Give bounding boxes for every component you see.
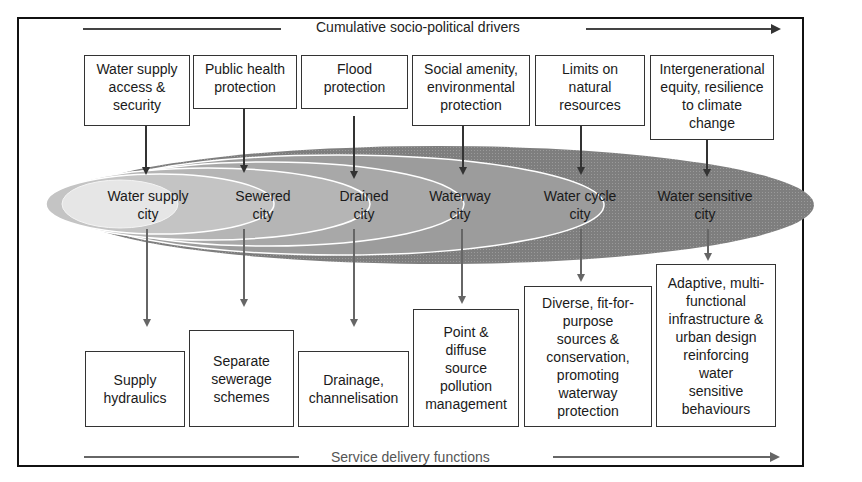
function-adaptive-infrastructure: Adaptive, multi- functional infrastructu… xyxy=(656,264,776,427)
arrow-function-2 xyxy=(243,229,245,300)
function-pollution-management: Point & diffuse source pollution managem… xyxy=(413,309,519,427)
bottom-line-right xyxy=(553,456,771,458)
city-water-supply: Water supply city xyxy=(93,187,203,223)
arrow-driver-3 xyxy=(353,116,355,172)
arrow-function-4 xyxy=(461,229,463,297)
function-separate-sewerage: Separate sewerage schemes xyxy=(189,330,294,427)
arrow-function-head-5-icon xyxy=(577,274,585,282)
driver-limits-resources: Limits on natural resources xyxy=(535,55,645,126)
arrow-driver-5 xyxy=(580,126,582,168)
function-drainage: Drainage, channelisation xyxy=(298,351,409,427)
arrow-head-2-icon xyxy=(240,165,248,173)
arrow-driver-4 xyxy=(462,126,464,168)
driver-social-amenity: Social amenity, environmental protection xyxy=(412,55,530,126)
function-supply-hydraulics: Supply hydraulics xyxy=(85,351,185,427)
arrow-function-5 xyxy=(580,229,582,275)
arrow-function-head-1-icon xyxy=(143,319,151,327)
city-drained: Drained city xyxy=(324,187,404,223)
arrow-driver-1 xyxy=(145,126,147,168)
arrow-function-head-3-icon xyxy=(350,319,358,327)
arrow-function-1 xyxy=(146,229,148,320)
function-diverse-sources: Diverse, fit-for- purpose sources & cons… xyxy=(524,286,652,427)
arrow-head-5-icon xyxy=(577,167,585,175)
arrow-function-head-6-icon xyxy=(704,253,712,261)
arrow-function-6 xyxy=(707,229,709,254)
bottom-line-left xyxy=(84,456,299,458)
arrow-function-head-4-icon xyxy=(458,296,466,304)
arrow-head-1-icon xyxy=(142,167,150,175)
driver-flood: Flood protection xyxy=(301,55,408,109)
city-waterway: Waterway city xyxy=(420,187,500,223)
city-water-sensitive: Water sensitive city xyxy=(645,187,765,223)
driver-intergenerational: Intergenerational equity, resilience to … xyxy=(650,55,774,140)
driver-public-health: Public health protection xyxy=(193,55,297,109)
arrow-function-head-2-icon xyxy=(240,299,248,307)
arrow-driver-2 xyxy=(243,109,245,166)
arrow-head-6-icon xyxy=(703,169,711,177)
city-sewered: Sewered city xyxy=(218,187,308,223)
driver-water-supply: Water supply access & security xyxy=(84,55,190,126)
arrow-driver-6 xyxy=(706,140,708,170)
arrow-head-3-icon xyxy=(350,171,358,179)
arrow-head-4-icon xyxy=(459,167,467,175)
arrow-function-3 xyxy=(353,229,355,320)
bottom-label: Service delivery functions xyxy=(331,449,490,465)
city-water-cycle: Water cycle city xyxy=(530,187,630,223)
bottom-arrow-icon xyxy=(770,452,780,462)
